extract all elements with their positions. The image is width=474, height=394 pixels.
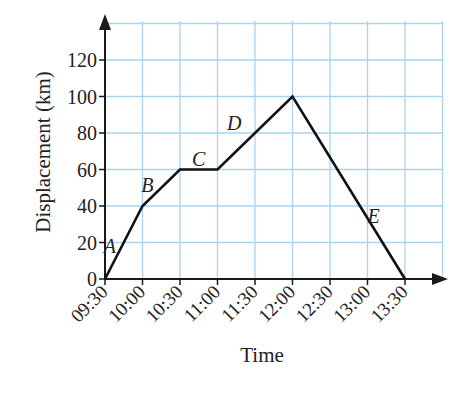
x-tick-label: 13:30 — [366, 281, 411, 326]
x-tick-label: 12:00 — [254, 281, 299, 326]
x-tick-label: 10:30 — [141, 281, 186, 326]
y-tick-label: 80 — [77, 122, 97, 144]
x-axis-title: Time — [240, 343, 284, 367]
segment-label-b: B — [141, 174, 153, 196]
x-axis-arrow-icon — [432, 273, 448, 285]
y-tick-label: 40 — [77, 195, 97, 217]
segment-label-c: C — [192, 148, 206, 170]
y-axis-title: Displacement (km) — [31, 71, 55, 233]
y-axis-arrow-icon — [99, 14, 111, 30]
x-tick-label: 13:00 — [329, 281, 374, 326]
segment-label-e: E — [366, 205, 379, 227]
y-ticks: 020406080100120 — [67, 49, 105, 290]
x-tick-label: 11:30 — [217, 281, 262, 326]
segment-label-d: D — [226, 112, 242, 134]
y-tick-label: 100 — [67, 86, 97, 108]
x-tick-label: 12:30 — [291, 281, 336, 326]
y-tick-label: 20 — [77, 232, 97, 254]
x-ticks: 09:3010:0010:3011:0011:3012:0012:3013:00… — [66, 279, 411, 326]
y-tick-label: 60 — [77, 159, 97, 181]
segment-label-a: A — [102, 235, 117, 257]
x-tick-label: 09:30 — [66, 281, 111, 326]
axes — [99, 14, 448, 285]
displacement-time-chart: 020406080100120 09:3010:0010:3011:0011:3… — [0, 0, 474, 394]
segment-labels: ABCDE — [102, 112, 380, 256]
x-tick-label: 11:00 — [179, 281, 224, 326]
grid — [105, 21, 443, 279]
x-tick-label: 10:00 — [104, 281, 149, 326]
y-tick-label: 120 — [67, 49, 97, 71]
